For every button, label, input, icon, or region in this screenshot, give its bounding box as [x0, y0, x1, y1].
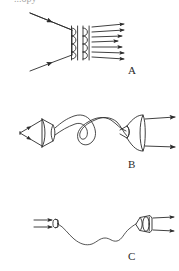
- panel-a-coil-column-right: [83, 26, 89, 60]
- panel-b-group: [20, 115, 175, 151]
- panel-label-b: B: [128, 158, 136, 170]
- panel-b-looped-tube: [55, 115, 127, 145]
- figure-container: ...opy: [0, 0, 179, 271]
- figure-drawing: [0, 0, 179, 271]
- panel-label-a: A: [128, 64, 136, 76]
- panel-a-group: [30, 13, 124, 71]
- panel-b-left-funnel: [42, 119, 55, 147]
- panel-c-group: [34, 216, 174, 245]
- panel-c-outgoing-rays: [153, 217, 174, 231]
- panel-c-wavy-fiber: [58, 224, 136, 245]
- panel-b-outgoing-rays: [145, 117, 175, 147]
- panel-c-incoming-rays: [34, 220, 52, 227]
- panel-c-input-aperture: [53, 219, 58, 227]
- panel-b-right-funnel: [120, 115, 145, 151]
- panel-a-outgoing-rays: [92, 24, 124, 59]
- panel-b-incoming-rays: [20, 120, 42, 146]
- panel-c-emitter-barrel: [136, 216, 152, 233]
- panel-a-incoming-rays: [30, 13, 72, 71]
- panel-label-c: C: [128, 250, 136, 262]
